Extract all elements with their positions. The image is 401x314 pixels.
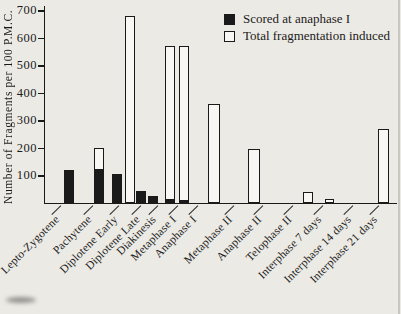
y-tick-mark-200 [38, 148, 44, 150]
y-tick-label-100: 100 [3, 168, 37, 182]
y-tick-mark-100 [38, 175, 44, 177]
legend: Scored at anaphase I Total fragmentation… [224, 12, 390, 46]
bar-total-metaphase-i [165, 46, 175, 203]
y-tick-mark-700 [38, 10, 44, 12]
scan-edge-streak [398, 0, 400, 314]
bar-total-telophase-ii [303, 192, 313, 203]
legend-label-total: Total fragmentation induced [243, 29, 390, 43]
y-tick-mark-400 [38, 93, 44, 95]
fragmentation-bar-chart: Number of Fragments per 100 P.M.C. 10020… [0, 0, 401, 314]
legend-item-total: Total fragmentation induced [224, 29, 390, 43]
y-tick-mark-600 [38, 38, 44, 40]
bar-scored-lepto-zygotene [64, 170, 74, 203]
legend-swatch-solid-black [224, 14, 235, 25]
bar-scored-metaphase-i [165, 199, 175, 203]
y-tick-label-600: 600 [3, 31, 37, 45]
legend-item-scored: Scored at anaphase I [224, 12, 390, 26]
x-axis-line [44, 203, 397, 204]
y-tick-mark-500 [38, 65, 44, 67]
bar-scored-diplotene-early [112, 174, 122, 203]
bar-total-diplotene-late [125, 16, 135, 204]
y-tick-label-300: 300 [3, 113, 37, 127]
bar-scored-diakinesis [148, 196, 158, 203]
bar-total-anaphase-ii [248, 149, 260, 203]
bar-total-anaphase-i [179, 46, 189, 203]
y-tick-label-400: 400 [3, 86, 37, 100]
bar-scored-diplotene-late [136, 191, 146, 203]
bar-scored-pachytene [94, 169, 104, 204]
bar-total-interphase-7-days [325, 199, 334, 203]
legend-label-scored: Scored at anaphase I [243, 12, 350, 26]
bar-total-metaphase-ii [208, 104, 220, 203]
legend-swatch-open-white [224, 31, 235, 42]
scan-smudge [6, 297, 36, 303]
y-tick-label-200: 200 [3, 141, 37, 155]
y-tick-label-500: 500 [3, 58, 37, 72]
bar-scored-anaphase-i [179, 200, 189, 203]
y-axis-line [44, 6, 45, 204]
y-tick-mark-300 [38, 120, 44, 122]
bar-total-interphase-21-days [378, 129, 389, 203]
y-tick-label-700: 700 [3, 3, 37, 17]
